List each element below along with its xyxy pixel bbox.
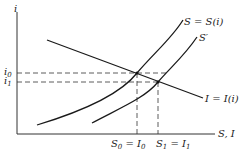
savings-shifted-curve [92,37,197,123]
x-tick-s0-i0: S0 = I0 [111,138,146,151]
savings-shifted-label: S′ [199,32,209,43]
x-axis-label: S, I [218,128,236,139]
savings-curve-label: S = S(i) [184,16,224,27]
equilibrium-point-1 [157,81,160,84]
savings-curve [37,20,183,125]
savings-investment-diagram: i S, I S = S(i) S′ I = I(i) i0 i1 S0 = I… [0,0,246,156]
x-tick-s1-i1: S1 = I1 [156,138,190,151]
investment-curve-label: I = I(i) [204,93,239,104]
y-axis-label: i [14,3,17,14]
investment-curve [47,40,203,98]
equilibrium-point-0 [136,72,139,75]
